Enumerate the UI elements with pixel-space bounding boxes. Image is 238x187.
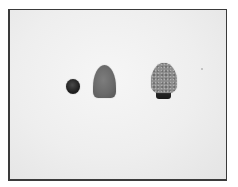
smooth-bullet-object: [93, 65, 116, 98]
dark-sphere-object: [66, 79, 80, 94]
dust-speck: [201, 68, 203, 70]
photo-frame: [8, 9, 227, 181]
textured-bullet-object: [151, 63, 177, 93]
